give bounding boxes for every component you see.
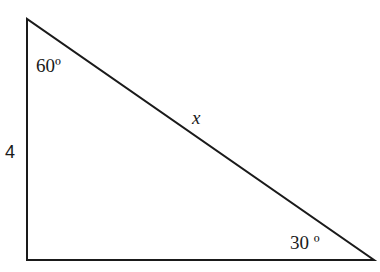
- angle-label-top: 60º: [36, 56, 61, 75]
- angle-label-right: 30 º: [290, 233, 320, 252]
- hypotenuse-label: x: [192, 108, 200, 127]
- triangle-outline: [27, 19, 374, 260]
- triangle-diagram: 60º 4 x 30 º: [0, 0, 380, 272]
- side-label-left: 4: [5, 143, 15, 161]
- triangle-shape: [0, 0, 380, 272]
